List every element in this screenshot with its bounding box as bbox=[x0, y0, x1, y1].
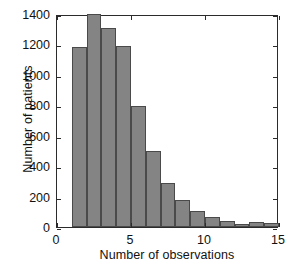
y-tick-label: 400 bbox=[4, 161, 50, 174]
histogram-figure: Number of patients Number of observation… bbox=[0, 0, 294, 270]
histogram-bar bbox=[249, 222, 264, 227]
x-tick-mark bbox=[279, 223, 280, 227]
x-tick-mark-top bbox=[279, 16, 280, 20]
y-tick-mark-right bbox=[273, 168, 277, 169]
x-tick-mark-top bbox=[131, 16, 132, 20]
histogram-bar bbox=[190, 211, 205, 227]
y-tick-mark bbox=[57, 77, 61, 78]
histogram-bar bbox=[101, 28, 116, 227]
y-axis-title: Number of patients bbox=[21, 39, 35, 199]
x-tick-mark bbox=[131, 223, 132, 227]
y-tick-mark-right bbox=[273, 46, 277, 47]
y-tick-mark bbox=[57, 199, 61, 200]
y-tick-mark bbox=[57, 229, 61, 230]
y-tick-label: 1000 bbox=[4, 70, 50, 83]
histogram-bar bbox=[161, 183, 176, 227]
histogram-bars bbox=[57, 16, 277, 227]
histogram-bar bbox=[175, 200, 190, 227]
y-tick-mark-right bbox=[273, 138, 277, 139]
y-tick-mark bbox=[57, 138, 61, 139]
y-tick-label: 1400 bbox=[4, 9, 50, 22]
y-tick-mark bbox=[57, 107, 61, 108]
x-tick-label: 10 bbox=[184, 234, 224, 247]
x-tick-label: 0 bbox=[36, 234, 76, 247]
y-tick-mark-right bbox=[273, 229, 277, 230]
histogram-bar bbox=[116, 46, 131, 227]
y-tick-mark bbox=[57, 168, 61, 169]
y-tick-mark bbox=[57, 46, 61, 47]
x-tick-mark bbox=[205, 223, 206, 227]
y-tick-mark-right bbox=[273, 16, 277, 17]
x-tick-mark-top bbox=[205, 16, 206, 20]
histogram-bar bbox=[146, 151, 161, 227]
x-tick-label: 15 bbox=[258, 234, 294, 247]
histogram-bar bbox=[87, 14, 102, 227]
y-tick-label: 1200 bbox=[4, 39, 50, 52]
y-tick-mark-right bbox=[273, 199, 277, 200]
histogram-bar bbox=[235, 224, 250, 227]
histogram-bar bbox=[72, 47, 87, 227]
x-tick-mark bbox=[57, 223, 58, 227]
x-tick-mark-top bbox=[57, 16, 58, 20]
y-tick-label: 0 bbox=[4, 222, 50, 235]
y-tick-mark-right bbox=[273, 107, 277, 108]
y-tick-label: 200 bbox=[4, 192, 50, 205]
y-tick-label: 600 bbox=[4, 131, 50, 144]
x-tick-label: 5 bbox=[110, 234, 150, 247]
histogram-bar bbox=[205, 217, 220, 227]
y-tick-mark-right bbox=[273, 77, 277, 78]
histogram-bar bbox=[264, 223, 279, 227]
histogram-bar bbox=[220, 221, 235, 227]
y-tick-label: 800 bbox=[4, 100, 50, 113]
plot-area bbox=[56, 15, 278, 228]
x-axis-title: Number of observations bbox=[56, 248, 278, 262]
histogram-bar bbox=[131, 106, 146, 227]
